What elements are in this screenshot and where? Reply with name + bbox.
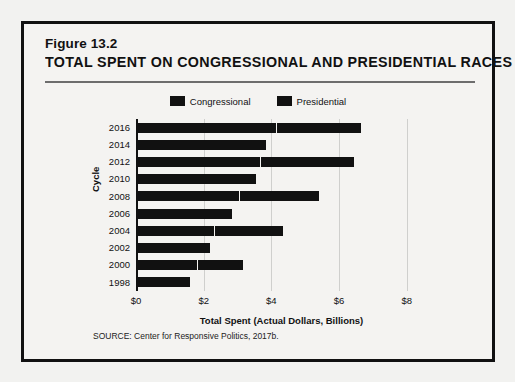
figure-number: Figure 13.2 bbox=[45, 36, 117, 51]
y-tick-label: 2014 bbox=[109, 140, 130, 150]
y-tick-label: 2016 bbox=[109, 123, 130, 133]
bar-segment-congressional bbox=[136, 157, 260, 167]
legend-label-congressional: Congressional bbox=[190, 96, 251, 107]
y-axis-title: Cycle bbox=[90, 167, 101, 192]
bar-segment-congressional bbox=[136, 191, 239, 201]
bar-row: 2002 bbox=[136, 243, 427, 253]
source-note: SOURCE: Center for Responsive Politics, … bbox=[93, 331, 279, 341]
bar-row: 2006 bbox=[136, 209, 427, 219]
y-tick-label: 2010 bbox=[109, 174, 130, 184]
bar-row: 2000 bbox=[136, 260, 427, 270]
y-tick-label: 1998 bbox=[109, 278, 130, 288]
figure-title: TOTAL SPENT ON CONGRESSIONAL AND PRESIDE… bbox=[45, 54, 512, 70]
y-tick-label: 2008 bbox=[109, 192, 130, 202]
bar-segment-presidential bbox=[214, 226, 283, 236]
bar-row: 2008 bbox=[136, 191, 427, 201]
bar-segment-congressional bbox=[136, 123, 276, 133]
bar-segment-congressional bbox=[136, 140, 266, 150]
title-divider bbox=[45, 81, 475, 83]
y-axis-line bbox=[136, 119, 138, 291]
y-tick-label: 2000 bbox=[109, 260, 130, 270]
x-tick-label: $8 bbox=[401, 295, 412, 306]
bar-segment-presidential bbox=[239, 191, 319, 201]
bar-segment-congressional bbox=[136, 174, 256, 184]
bar-row: 1998 bbox=[136, 277, 427, 287]
x-tick-label: $6 bbox=[334, 295, 345, 306]
figure-body: Figure 13.2 TOTAL SPENT ON CONGRESSIONAL… bbox=[24, 24, 492, 359]
figure-frame: Figure 13.2 TOTAL SPENT ON CONGRESSIONAL… bbox=[21, 21, 495, 362]
bar-segment-congressional bbox=[136, 209, 232, 219]
bar-row: 2012 bbox=[136, 157, 427, 167]
chart-legend: Congressional Presidential bbox=[24, 94, 492, 108]
bar-row: 2014 bbox=[136, 140, 427, 150]
y-tick-label: 2012 bbox=[109, 157, 130, 167]
bar-segment-congressional bbox=[136, 277, 190, 287]
x-tick-label: $0 bbox=[131, 295, 142, 306]
legend-label-presidential: Presidential bbox=[297, 96, 347, 107]
bar-segment-congressional bbox=[136, 226, 214, 236]
legend-swatch-presidential bbox=[277, 96, 292, 106]
y-tick-label: 2006 bbox=[109, 209, 130, 219]
bar-row: 2004 bbox=[136, 226, 427, 236]
bar-segment-presidential bbox=[197, 260, 243, 270]
bar-row: 2010 bbox=[136, 174, 427, 184]
bar-segment-presidential bbox=[276, 123, 361, 133]
bar-row: 2016 bbox=[136, 123, 427, 133]
plot-area: 2016201420122010200820062004200220001998… bbox=[136, 119, 427, 291]
x-tick-label: $4 bbox=[266, 295, 277, 306]
legend-item-presidential: Presidential bbox=[277, 96, 347, 107]
bar-segment-presidential bbox=[260, 157, 355, 167]
bar-segment-congressional bbox=[136, 260, 197, 270]
bar-segment-congressional bbox=[136, 243, 210, 253]
legend-swatch-congressional bbox=[170, 96, 185, 106]
y-tick-label: 2002 bbox=[109, 243, 130, 253]
x-axis-title: Total Spent (Actual Dollars, Billions) bbox=[136, 315, 427, 326]
x-tick-label: $2 bbox=[198, 295, 209, 306]
y-tick-label: 2004 bbox=[109, 226, 130, 236]
legend-item-congressional: Congressional bbox=[170, 96, 251, 107]
